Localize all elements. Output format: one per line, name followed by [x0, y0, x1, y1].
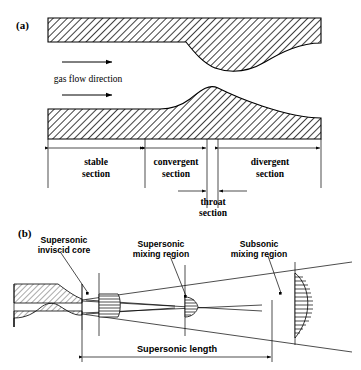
supersonic-mixing-region-label-line2: mixing region [133, 249, 189, 259]
stable-section-label-line2: section [82, 169, 111, 179]
leader-dot-inviscid-core [86, 292, 89, 295]
panel-a-label: (a) [16, 19, 29, 32]
figure-container: (a) gas flow direction stable section co… [0, 0, 361, 370]
nozzle-jet-figure: (a) gas flow direction stable section co… [0, 0, 361, 370]
leader-dot-subsonic-mixing [279, 292, 282, 295]
throat-section-label-line1: throat [200, 197, 226, 207]
subsonic-mixing-region-label-line1: Subsonic [240, 239, 279, 249]
supersonic-inviscid-core-label-line2: inviscid core [38, 245, 91, 255]
supersonic-inviscid-core-label-line1: Supersonic [41, 235, 88, 245]
supersonic-length-label: Supersonic length [137, 344, 218, 354]
convergent-section-label-line2: section [162, 169, 191, 179]
throat-section-label-line2: section [199, 208, 228, 218]
divergent-section-label-line1: divergent [251, 157, 290, 167]
velocity-profile-1-outline [99, 294, 120, 317]
supersonic-mixing-region-label-line1: Supersonic [138, 239, 185, 249]
panel-b-label: (b) [18, 227, 32, 240]
divergent-section-label-line2: section [256, 169, 285, 179]
stable-section-label-line1: stable [84, 157, 108, 167]
leader-dot-supersonic-mixing [184, 295, 187, 298]
gas-flow-direction-label: gas flow direction [54, 74, 123, 84]
subsonic-mixing-region-label-line2: mixing region [231, 249, 287, 259]
convergent-section-label-line1: convergent [154, 157, 200, 167]
velocity-profile-1-hatch [99, 296, 120, 314]
